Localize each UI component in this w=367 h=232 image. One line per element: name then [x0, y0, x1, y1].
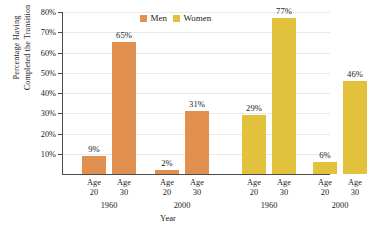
y-axis-title: Percentage Having Completed the Transiti…: [12, 0, 33, 123]
bar-value-label: 29%: [246, 103, 262, 113]
x-axis-age-word: Age: [190, 178, 204, 188]
bar-men-1960-age20[interactable]: [82, 156, 106, 174]
y-axis-title-line2: Completed the Transition: [22, 0, 33, 123]
x-axis-year-label: 2000: [332, 201, 349, 210]
bar-women-1960-age20[interactable]: [242, 115, 266, 174]
x-axis-age-number: 30: [277, 188, 291, 198]
bar-women-1960-age30[interactable]: [272, 18, 296, 174]
bar-value-label: 46%: [347, 69, 363, 79]
bar-women-2000-age30[interactable]: [343, 81, 367, 174]
bar-men-1960-age30[interactable]: [112, 42, 136, 174]
x-axis-group-label: Age30: [117, 178, 131, 198]
bar-value-label: 31%: [189, 99, 205, 109]
x-axis-age-number: 20: [318, 188, 332, 198]
y-axis-tick-label: 20%: [41, 129, 56, 138]
x-axis-group-label: Age20: [247, 178, 261, 198]
x-axis-year-label: 2000: [174, 201, 191, 210]
x-axis-group-label: Age20: [318, 178, 332, 198]
bar-men-2000-age30[interactable]: [185, 111, 209, 174]
x-axis-age-word: Age: [87, 178, 101, 188]
y-axis-title-line1: Percentage Having: [12, 0, 23, 123]
x-axis-age-word: Age: [247, 178, 261, 188]
x-axis-group-label: Age20: [87, 178, 101, 198]
x-axis-line: [62, 174, 330, 175]
x-axis-group-label: Age30: [190, 178, 204, 198]
x-axis-age-number: 20: [247, 188, 261, 198]
x-axis-group-label: Age30: [277, 178, 291, 198]
x-axis-age-number: 20: [160, 188, 174, 198]
x-axis-title: Year: [0, 213, 336, 223]
bar-men-2000-age20[interactable]: [155, 170, 179, 174]
bar-value-label: 2%: [161, 158, 172, 168]
y-axis-tick-label: 40%: [41, 89, 56, 98]
y-axis-tick-label: 10%: [41, 149, 56, 158]
x-axis-age-number: 30: [117, 188, 131, 198]
plot-area: 10%20%30%40%50%60%70%80% 9%65%2%31%29%77…: [62, 12, 330, 175]
bar-value-label: 77%: [276, 6, 292, 16]
y-axis-tick-label: 50%: [41, 68, 56, 77]
bar-value-label: 9%: [88, 144, 99, 154]
x-axis-age-word: Age: [348, 178, 362, 188]
x-axis-age-number: 30: [348, 188, 362, 198]
x-axis-age-word: Age: [117, 178, 131, 188]
x-axis-age-word: Age: [318, 178, 332, 188]
x-axis-age-number: 20: [87, 188, 101, 198]
x-axis-group-label: Age20: [160, 178, 174, 198]
bar-value-label: 6%: [319, 150, 330, 160]
x-axis-year-label: 1960: [261, 201, 278, 210]
y-axis-tick-label: 80%: [41, 8, 56, 17]
y-axis-tick-label: 30%: [41, 109, 56, 118]
x-axis-age-word: Age: [160, 178, 174, 188]
y-axis-tick-label: 60%: [41, 48, 56, 57]
y-axis-tick-label: 70%: [41, 28, 56, 37]
bar-women-2000-age20[interactable]: [313, 162, 337, 174]
x-axis-age-number: 30: [190, 188, 204, 198]
x-axis-group-label: Age30: [348, 178, 362, 198]
x-axis-age-word: Age: [277, 178, 291, 188]
x-axis-year-label: 1960: [101, 201, 118, 210]
bar-value-label: 65%: [116, 30, 132, 40]
